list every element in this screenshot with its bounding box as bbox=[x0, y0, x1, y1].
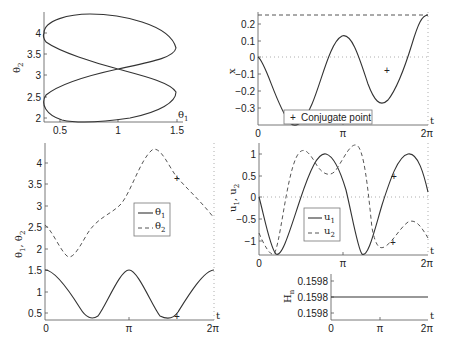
x-axis-label: t bbox=[430, 115, 434, 126]
legend: + Conjugate point bbox=[284, 110, 372, 124]
theta2-curve bbox=[45, 149, 214, 257]
y-tick-label: 3 bbox=[35, 70, 41, 81]
x-tick-label: π bbox=[126, 323, 133, 334]
legend: u1 u2 bbox=[304, 208, 340, 241]
y-tick-label: 0.2 bbox=[241, 19, 255, 30]
y-tick-label: 1 bbox=[36, 287, 42, 298]
y-tick-label: 4 bbox=[35, 28, 41, 39]
y-tick-label: 3 bbox=[36, 201, 42, 212]
y-tick-label: 0 bbox=[249, 52, 255, 63]
x-tick-label: 1.5 bbox=[170, 125, 184, 136]
x-axis-label: t bbox=[430, 310, 434, 321]
y-tick-label: 0.5 bbox=[242, 171, 256, 182]
y-axis-label: θ2 bbox=[11, 63, 25, 74]
y-tick-label: 4 bbox=[36, 158, 42, 169]
conjugate-point-marker: + bbox=[174, 311, 180, 322]
y-tick-label: 0.1598 bbox=[297, 276, 328, 287]
y-axis-label: Hn bbox=[282, 289, 296, 303]
y-tick-label: −0.2 bbox=[235, 86, 255, 97]
conjugate-point-marker: + bbox=[390, 237, 396, 248]
y-tick-label: 0.5 bbox=[28, 308, 42, 319]
x-tick-label: π bbox=[340, 128, 347, 139]
y-tick-label: −0.5 bbox=[236, 214, 256, 225]
x-axis-label: t bbox=[216, 310, 220, 321]
conjugate-point-marker: + bbox=[174, 173, 180, 184]
u2-curve bbox=[259, 145, 428, 254]
plot-controls: 1 0.5 0 −0.5 −1 0 π 2π t u1, u2 + + u1 u… bbox=[227, 143, 434, 269]
x-tick-label: 0 bbox=[256, 258, 262, 269]
y-tick-label: 1 bbox=[250, 149, 256, 160]
x-tick-label: 2π bbox=[207, 323, 220, 334]
x-tick-label: π bbox=[340, 258, 347, 269]
x-tick-label: 0 bbox=[43, 323, 49, 334]
y-tick-label: 0.1598 bbox=[297, 308, 328, 319]
y-tick-label: 2 bbox=[36, 244, 42, 255]
plot-theta-time: 4 3.5 3 2.5 2 1.5 1 0.5 0 π 2π t θ1, θ2 … bbox=[13, 143, 220, 334]
y-tick-label: 2 bbox=[35, 113, 41, 124]
x-tick-label: 1 bbox=[115, 125, 121, 136]
x-tick-label: 0 bbox=[255, 128, 261, 139]
y-tick-label: −1 bbox=[245, 236, 257, 247]
legend-label: Conjugate point bbox=[301, 112, 371, 123]
figure: 4 3.5 3 2.5 2 0.5 1 1.5 θ1 θ2 0.2 0.1 0 … bbox=[0, 0, 452, 343]
y-tick-label: 3.5 bbox=[28, 179, 42, 190]
y-axis-label: x bbox=[226, 68, 237, 74]
x-tick-label: π bbox=[377, 323, 384, 334]
y-tick-label: 2.5 bbox=[28, 222, 42, 233]
y-tick-label: 3.5 bbox=[27, 49, 41, 60]
plot-hamiltonian: 0.1598 0.1598 0.1598 0 π 2π t Hn bbox=[282, 274, 434, 334]
legend: θ1 θ2 bbox=[134, 203, 170, 236]
y-tick-label: 0 bbox=[250, 192, 256, 203]
x-axis-label: t bbox=[430, 245, 434, 256]
x-tick-label: 2π bbox=[421, 258, 434, 269]
phase-curve bbox=[43, 14, 176, 122]
legend-marker: + bbox=[290, 112, 296, 123]
x-tick-label: 2π bbox=[421, 128, 434, 139]
conjugate-point-marker: + bbox=[391, 171, 397, 182]
y-tick-label: 2.5 bbox=[27, 92, 41, 103]
y-tick-label: 0.1 bbox=[241, 36, 255, 47]
x-tick-label: 0.5 bbox=[53, 125, 67, 136]
conjugate-point-marker: + bbox=[384, 65, 390, 76]
theta1-curve bbox=[45, 270, 214, 318]
x-tick-label: 0 bbox=[328, 323, 334, 334]
y-axis-label: u1, u2 bbox=[227, 184, 241, 212]
plot-theta-phase: 4 3.5 3 2.5 2 0.5 1 1.5 θ1 θ2 bbox=[11, 12, 189, 136]
y-tick-label: 0.1598 bbox=[297, 292, 328, 303]
y-tick-label: −0.1 bbox=[235, 69, 255, 80]
x-curve bbox=[258, 15, 428, 125]
y-axis-label: θ1, θ2 bbox=[13, 231, 27, 258]
y-tick-label: 1.5 bbox=[28, 265, 42, 276]
x-axis-label: θ1 bbox=[178, 109, 189, 123]
y-tick-label: −0.3 bbox=[235, 103, 255, 114]
x-tick-label: 2π bbox=[421, 323, 434, 334]
plot-x: 0.2 0.1 0 −0.1 −0.2 −0.3 0 π 2π t x + + … bbox=[226, 12, 434, 139]
